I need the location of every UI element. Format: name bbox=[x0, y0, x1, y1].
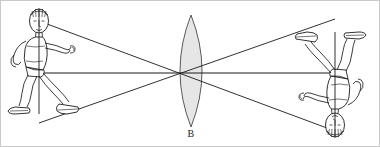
ray-diagram-canvas bbox=[1, 1, 380, 147]
object-person-upright bbox=[8, 9, 79, 115]
optics-diagram-figure: B bbox=[0, 0, 380, 147]
converging-lens bbox=[180, 15, 202, 127]
lens-label-b: B bbox=[179, 128, 203, 139]
image-person-inverted bbox=[295, 32, 366, 138]
